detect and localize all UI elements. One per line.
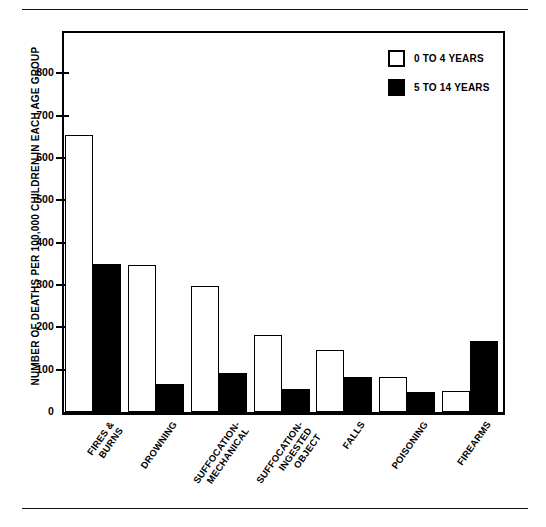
hollow-square-icon: [388, 50, 405, 67]
bar: [191, 286, 219, 412]
bar: [156, 384, 184, 412]
y-axis-tick-label: 400: [24, 237, 54, 247]
bar: [93, 264, 121, 412]
y-axis-tick-label: 0: [24, 406, 54, 416]
x-axis-baseline: [62, 412, 505, 415]
y-axis-tick: [56, 72, 69, 74]
y-axis-tick-label: 600: [24, 152, 54, 162]
filled-square-icon: [388, 79, 405, 96]
y-axis-tick-label: 200: [24, 321, 54, 331]
legend-item-label: 5 TO 14 YEARS: [414, 82, 490, 93]
bar: [316, 350, 344, 412]
y-axis-tick: [56, 115, 69, 117]
bar: [282, 389, 310, 412]
x-axis-category-label: POISONING: [352, 419, 430, 524]
legend-item: 0 TO 4 YEARS: [388, 50, 490, 67]
y-axis-tick-label: 100: [24, 364, 54, 374]
y-axis-title: NUMBER OF DEATHS PER 100,000 CHILDREN IN…: [30, 56, 41, 386]
y-axis-tick-label: 800: [24, 67, 54, 77]
y-axis-tick-label: 700: [24, 110, 54, 120]
bar-chart-figure: NUMBER OF DEATHS PER 100,000 CHILDREN IN…: [0, 0, 546, 527]
legend-item: 5 TO 14 YEARS: [388, 79, 490, 96]
bar: [65, 135, 93, 412]
y-axis-tick-label: 300: [24, 279, 54, 289]
bar: [470, 341, 498, 412]
bar: [442, 391, 470, 412]
y-axis-tick-label: 500: [24, 194, 54, 204]
bar: [254, 335, 282, 412]
chart-legend: 0 TO 4 YEARS 5 TO 14 YEARS: [388, 50, 490, 108]
bar: [128, 265, 156, 412]
bar: [379, 377, 407, 412]
legend-item-label: 0 TO 4 YEARS: [414, 53, 484, 64]
x-axis-category-label: FIREARMS: [415, 419, 493, 524]
bar: [219, 373, 247, 412]
bar: [407, 392, 435, 412]
bar: [344, 377, 372, 412]
